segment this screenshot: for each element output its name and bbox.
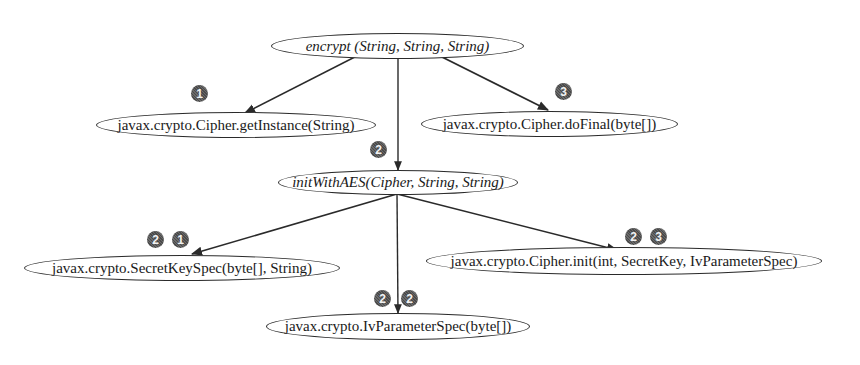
node-getinstance: javax.crypto.Cipher.getInstance(String) — [96, 112, 376, 138]
node-secretkeyspec-label: javax.crypto.SecretKeySpec(byte[], Strin… — [52, 261, 312, 276]
edge-initwithaes-secretkeyspec — [192, 194, 397, 254]
order-badge-cipherinit-1: 2 — [625, 228, 642, 245]
node-ivparameterspec: javax.crypto.IvParameterSpec(byte[]) — [266, 313, 530, 340]
edge-initwithaes-cipherinit — [397, 194, 617, 250]
order-badge-ivparameterspec-2: 2 — [401, 290, 418, 307]
node-cipherinit-label: javax.crypto.Cipher.init(int, SecretKey,… — [451, 254, 798, 269]
node-cipherinit: javax.crypto.Cipher.init(int, SecretKey,… — [426, 247, 822, 275]
node-dofinal: javax.crypto.Cipher.doFinal(byte[]) — [421, 111, 678, 137]
node-secretkeyspec: javax.crypto.SecretKeySpec(byte[], Strin… — [24, 255, 340, 281]
node-getinstance-label: javax.crypto.Cipher.getInstance(String) — [117, 118, 354, 133]
order-badge-cipherinit-2: 3 — [650, 228, 667, 245]
order-badge-getinstance: 1 — [191, 85, 208, 102]
node-ivparameterspec-label: javax.crypto.IvParameterSpec(byte[]) — [285, 319, 512, 334]
node-encrypt: encrypt (String, String, String) — [271, 33, 524, 59]
order-badge-secretkeyspec-1: 2 — [147, 231, 164, 248]
node-encrypt-label: encrypt (String, String, String) — [306, 39, 490, 54]
edge-initwithaes-ivparameterspec — [397, 194, 398, 313]
order-badge-dofinal: 3 — [555, 83, 572, 100]
order-badge-initwithaes: 2 — [370, 141, 387, 158]
node-initwithaes: initWithAES(Cipher, String, String) — [278, 170, 518, 195]
node-initwithaes-label: initWithAES(Cipher, String, String) — [292, 175, 504, 190]
order-badge-ivparameterspec-1: 2 — [374, 290, 391, 307]
call-graph-diagram: encrypt (String, String, String) javax.c… — [0, 0, 860, 365]
node-dofinal-label: javax.crypto.Cipher.doFinal(byte[]) — [443, 117, 657, 132]
order-badge-secretkeyspec-2: 1 — [172, 231, 189, 248]
